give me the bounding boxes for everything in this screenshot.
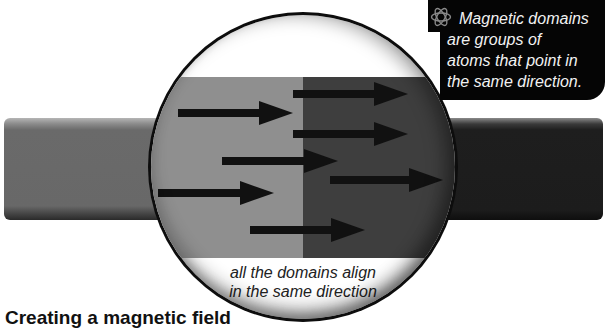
domain-arrow bbox=[293, 130, 408, 138]
domain-arrow bbox=[250, 226, 365, 234]
arrow-shaft bbox=[158, 189, 244, 197]
callout-text: Magnetic domains are groups of atoms tha… bbox=[447, 8, 605, 92]
domain-arrow bbox=[222, 157, 338, 165]
arrow-shaft bbox=[250, 226, 335, 234]
magnifier-lens: all the domains align in the same direct… bbox=[151, 15, 455, 319]
arrow-head-icon bbox=[240, 181, 274, 205]
arrow-shaft bbox=[293, 130, 378, 138]
arrow-head-icon bbox=[304, 149, 338, 173]
lens-caption: all the domains align in the same direct… bbox=[151, 263, 455, 301]
arrow-head-icon bbox=[374, 122, 408, 146]
callout-line-4: the same direction. bbox=[447, 71, 605, 92]
domain-arrow bbox=[178, 109, 293, 117]
caption-line-2: in the same direction bbox=[151, 282, 455, 301]
callout-line-1: Magnetic domains bbox=[447, 8, 605, 29]
callout-line-3: atoms that point in bbox=[447, 50, 605, 71]
domain-arrow bbox=[158, 189, 274, 197]
callout-line-2: are groups of bbox=[447, 29, 605, 50]
arrow-head-icon bbox=[409, 168, 443, 192]
domain-arrow bbox=[330, 176, 443, 184]
arrow-head-icon bbox=[374, 82, 408, 106]
arrow-head-icon bbox=[259, 101, 293, 125]
arrow-shaft bbox=[178, 109, 263, 117]
arrow-shaft bbox=[293, 90, 378, 98]
magnet-right-bar bbox=[430, 118, 603, 220]
arrow-head-icon bbox=[331, 218, 365, 242]
arrow-shaft bbox=[330, 176, 413, 184]
domain-arrow bbox=[293, 90, 408, 98]
magnet-left-bar bbox=[4, 118, 174, 220]
arrow-shaft bbox=[222, 157, 308, 165]
section-heading: Creating a magnetic field bbox=[5, 307, 231, 329]
caption-line-1: all the domains align bbox=[151, 263, 455, 282]
